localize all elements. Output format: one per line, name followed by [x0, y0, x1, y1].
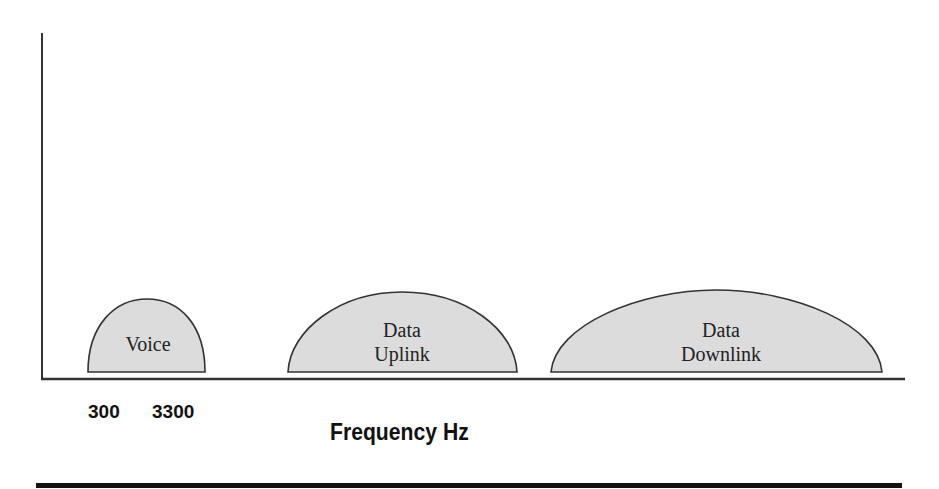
data-downlink-label: Data Downlink — [661, 318, 781, 366]
data-uplink-label-line-1: Data — [352, 318, 452, 342]
x-axis-title: Frequency Hz — [330, 419, 469, 446]
data-uplink-label: Data Uplink — [352, 318, 452, 366]
data-uplink-label-line-2: Uplink — [352, 342, 452, 366]
tick-label-3300: 3300 — [152, 401, 194, 423]
data-downlink-label-line-2: Downlink — [661, 342, 781, 366]
spectrum-graphic — [0, 0, 939, 489]
tick-label-300: 300 — [88, 401, 120, 423]
voice-label: Voice — [108, 332, 188, 356]
bottom-rule — [36, 483, 902, 488]
frequency-spectrum-diagram: Voice Data Uplink Data Downlink 300 3300… — [0, 0, 939, 489]
voice-label-line: Voice — [108, 332, 188, 356]
data-downlink-label-line-1: Data — [661, 318, 781, 342]
